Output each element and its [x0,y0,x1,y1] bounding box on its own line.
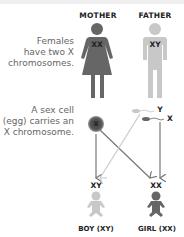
arrow-sperm-y-to-boy [100,114,140,178]
mother-chromosomes: XX [85,40,109,49]
mother-figure-icon [81,23,113,98]
sperm-y-label: Y [155,105,165,114]
girl-label: GIRL (XX) [132,225,182,233]
sperm-y-icon [132,109,154,113]
caption-line: (egg) carries an [0,116,74,127]
caption-line: Females [0,36,74,47]
girl-chromosomes: XX [146,181,166,190]
females-caption: Females have two X chromosomes. [0,36,74,69]
caption-line: have two X [0,47,74,58]
caption-line: X chromosome. [0,127,74,138]
girl-baby-icon [147,192,165,218]
father-figure-icon [143,23,167,98]
caption-line: A sex cell [0,105,74,116]
boy-chromosomes: XY [86,181,106,190]
father-chromosomes: XY [143,40,167,49]
sperm-x-label: X [165,114,175,123]
boy-baby-icon [87,192,105,218]
boy-label: BOY (XY) [72,225,120,233]
egg-caption: A sex cell (egg) carries an X chromosome… [0,105,74,138]
egg-chromosome: X [88,120,104,128]
sperm-x-icon [142,117,164,121]
caption-line: chromosomes. [0,58,74,69]
